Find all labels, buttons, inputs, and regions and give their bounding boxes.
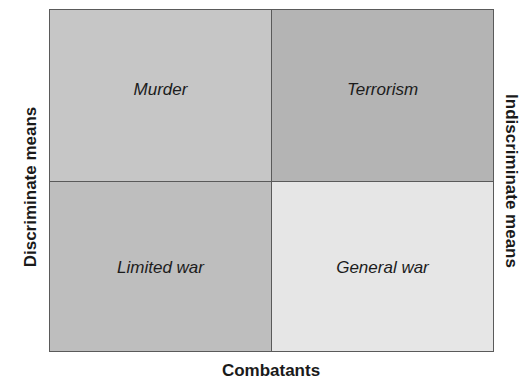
quadrant-limited-war: Limited war (50, 182, 272, 351)
bottom-axis-label: Combatants (222, 361, 320, 381)
matrix-grid: Murder Terrorism Limited war General war (49, 9, 494, 352)
quadrant-terrorism: Terrorism (272, 10, 493, 182)
quadrant-general-war: General war (272, 182, 493, 351)
right-axis-label: Indiscriminate means (501, 94, 521, 268)
quadrant-label: General war (336, 258, 429, 278)
quadrant-label: Limited war (117, 258, 204, 278)
quadrant-label: Murder (134, 80, 188, 100)
quadrant-murder: Murder (50, 10, 272, 182)
quadrant-label: Terrorism (347, 80, 418, 100)
left-axis-label: Discriminate means (21, 107, 41, 268)
